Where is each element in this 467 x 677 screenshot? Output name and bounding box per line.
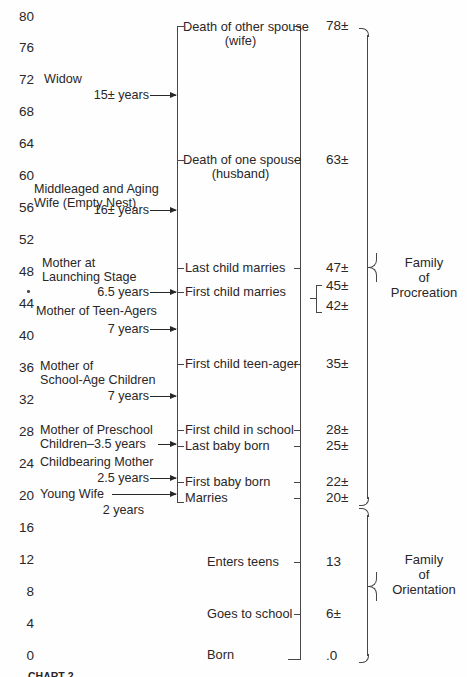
- age-value-35: 35±: [326, 356, 348, 371]
- timeline-right-spine: [300, 26, 301, 660]
- bracket-family-of-procreation: [359, 28, 377, 506]
- duration-arrow-middleaged-wife: [150, 210, 176, 211]
- axis-tick-76: 76: [8, 40, 34, 55]
- group-label-procreation-line2: of: [382, 270, 466, 286]
- tick-right-enters-teens: [294, 562, 301, 563]
- axis-tick-4: 4: [8, 616, 34, 631]
- axis-tick-80: 80: [8, 9, 34, 24]
- event-last-child-marries: Last child marries: [185, 261, 285, 276]
- timeline-left-bottom-foot: [177, 502, 184, 503]
- duration-arrow-teenagers: [150, 329, 176, 330]
- chart-caption: CHART 2: [28, 670, 258, 677]
- axis-tick-16: 16: [8, 520, 34, 535]
- age-value-45: 45±: [326, 278, 348, 293]
- axis-tick-12: 12: [8, 552, 34, 567]
- axis-tick-64: 64: [8, 136, 34, 151]
- tick-first-baby-born: [178, 482, 184, 483]
- timeline-left-spine: [177, 26, 178, 503]
- bracket-orientation-nub-upper: [367, 572, 377, 587]
- axis-tick-32: 32: [8, 392, 34, 407]
- tick-first-child-marries: [178, 292, 184, 293]
- tick-first-child-teenager: [178, 364, 184, 365]
- axis-tick-20: 20: [8, 488, 34, 503]
- stage-label-preschool-line2: Children–3.5 years: [40, 437, 146, 452]
- axis-tick-56: 56: [8, 200, 34, 215]
- age-value-42: 42±: [326, 298, 348, 313]
- group-label-orientation-line1: Family: [382, 552, 466, 568]
- event-death-other-spouse-line2: (wife): [183, 34, 298, 49]
- first-child-marries-bracket: [316, 285, 322, 313]
- tick-right-first-baby-born: [294, 482, 301, 483]
- stage-duration-teenagers: 7 years: [44, 322, 149, 336]
- bracket-orientation-bottom-cap: [359, 654, 369, 663]
- group-label-procreation-line1: Family: [382, 255, 466, 271]
- stage-duration-school-age: 7 years: [44, 389, 149, 403]
- age-value-25: 25±: [326, 438, 348, 453]
- duration-arrow-school-age: [150, 396, 176, 397]
- stage-label-preschool-line1: Mother of Preschool: [40, 423, 153, 438]
- age-value-47: 47±: [326, 260, 348, 275]
- bracket-family-of-orientation: [359, 508, 377, 663]
- age-value-78: 78±: [326, 18, 348, 33]
- stage-duration-childbearing: 2.5 years: [44, 471, 149, 485]
- event-enters-teens: Enters teens: [207, 555, 279, 570]
- event-goes-to-school: Goes to school: [207, 607, 292, 622]
- age-value-20: 20±: [326, 490, 348, 505]
- tick-last-baby-born: [178, 446, 184, 447]
- axis-tick-28: 28: [8, 424, 34, 439]
- stage-label-launching-line2: Launching Stage: [42, 270, 137, 285]
- axis-tick-68: 68: [8, 104, 34, 119]
- stage-label-young-wife: Young Wife: [40, 487, 104, 502]
- stage-label-teenagers: Mother of Teen-Agers: [36, 304, 157, 319]
- age-value-63: 63±: [326, 152, 348, 167]
- axis-tick-44: 44: [8, 296, 34, 311]
- stage-label-middleaged-wife-line1: Middleaged and Aging: [34, 182, 159, 197]
- duration-arrow-launching: [150, 292, 176, 293]
- bracket-orientation-nub-lower: [367, 586, 377, 601]
- stage-duration-young-wife: 2 years: [44, 503, 144, 517]
- family-life-cycle-chart: 80 76 72 68 64 60 56 52 48 44 40 36 32 2…: [0, 0, 467, 677]
- tick-right-goes-to-school: [294, 614, 301, 615]
- duration-arrow-preschool: [158, 444, 176, 445]
- stage-label-launching-line1: Mother at: [42, 256, 95, 271]
- event-last-baby-born: Last baby born: [185, 439, 270, 454]
- tick-last-child-marries: [178, 268, 184, 269]
- event-first-child-teenager: First child teen-ager: [185, 357, 298, 372]
- bracket-procreation-nub-upper: [367, 253, 377, 268]
- group-label-orientation-line2: of: [382, 567, 466, 583]
- stage-duration-launching: 6.5 years: [44, 285, 149, 299]
- axis-tick-40: 40: [8, 328, 34, 343]
- event-marries: Marries: [185, 491, 228, 506]
- first-child-marries-bracket-stem: [310, 298, 316, 299]
- stage-label-school-age-line1: Mother of: [40, 359, 93, 374]
- axis-tick-48: 48: [8, 264, 34, 279]
- age-value-0: .0: [326, 648, 337, 663]
- tick-first-child-in-school: [178, 430, 184, 431]
- age-value-13: 13: [326, 554, 341, 569]
- bracket-procreation-bottom-cap: [359, 497, 369, 506]
- age-value-22: 22±: [326, 474, 348, 489]
- axis-tick-52: 52: [8, 232, 34, 247]
- stage-duration-widow: 15± years: [44, 88, 149, 102]
- timeline-right-bottom-foot: [288, 659, 301, 660]
- axis-tick-24: 24: [8, 456, 34, 471]
- tick-right-last-baby-born: [294, 446, 301, 447]
- event-first-baby-born: First baby born: [185, 475, 270, 490]
- axis-tick-60: 60: [8, 168, 34, 183]
- event-first-child-marries: First child marries: [185, 285, 286, 300]
- stage-duration-middleaged-wife: 16± years: [44, 203, 149, 217]
- tick-right-last-child-marries: [294, 268, 301, 269]
- event-born: Born: [207, 648, 234, 663]
- group-label-procreation-line3: Procreation: [382, 285, 466, 301]
- stage-label-widow: Widow: [44, 72, 82, 87]
- axis-tick-0: 0: [8, 648, 34, 663]
- duration-arrow-widow: [150, 95, 176, 96]
- event-death-one-spouse-line2: (husband): [183, 167, 298, 182]
- axis-tick-72: 72: [8, 72, 34, 87]
- event-first-child-in-school: First child in school: [185, 423, 294, 438]
- age-value-28: 28±: [326, 422, 348, 437]
- tick-right-marries: [294, 498, 301, 499]
- bracket-procreation-nub-lower: [367, 267, 377, 282]
- duration-arrow-childbearing: [150, 478, 176, 479]
- axis-tick-36: 36: [8, 360, 34, 375]
